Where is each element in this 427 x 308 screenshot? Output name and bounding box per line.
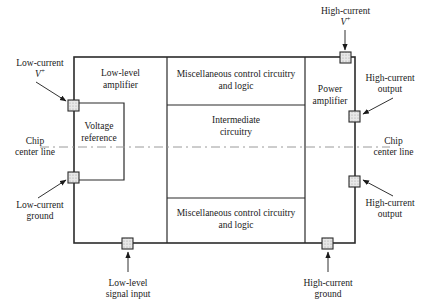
leader-high-current-output-lower: [363, 180, 393, 196]
callout-high-current-output-lower-line2: output: [355, 209, 425, 220]
callout-low-current-vplus-line2: V+: [2, 69, 78, 80]
chip-floorplan-figure: Low-level amplifier Voltage reference Mi…: [0, 0, 427, 308]
block-label-power-amplifier-line1: Power: [305, 84, 355, 96]
voltage-superscript: +: [41, 67, 45, 75]
callout-low-current-ground-line2: ground: [2, 211, 78, 222]
block-label-misc-control-top-line2: and logic: [167, 81, 305, 93]
callout-high-current-ground-line2: ground: [286, 289, 370, 300]
block-label-misc-control-bottom: Miscellaneous control circuitry and logi…: [167, 208, 305, 231]
label-chip-center-line-left: Chip center line: [0, 136, 70, 158]
callout-high-current-ground: High-current ground: [286, 278, 370, 300]
pad-high-current-output-lower: [349, 176, 360, 187]
pad-low-current-vplus: [68, 100, 79, 111]
block-label-voltage-reference: Voltage reference: [74, 121, 124, 144]
callout-low-level-signal-input-line1: Low-level: [88, 278, 168, 289]
callout-low-current-vplus: Low-current V+: [2, 58, 78, 80]
label-chip-center-line-right-line1: Chip: [360, 136, 427, 147]
block-label-low-level-amplifier-line2: amplifier: [74, 80, 167, 92]
callout-low-current-ground-line1: Low-current: [2, 200, 78, 211]
callout-high-current-vplus-line2: V+: [303, 17, 388, 28]
callout-high-current-output-lower-line1: High-current: [355, 198, 425, 209]
pad-high-current-ground: [322, 238, 333, 249]
pad-high-current-vplus: [340, 52, 351, 63]
block-label-power-amplifier-line2: amplifier: [305, 96, 355, 108]
callout-high-current-output-lower: High-current output: [355, 198, 425, 220]
callout-high-current-output-upper-line1: High-current: [355, 73, 425, 84]
pad-low-current-ground: [68, 172, 79, 183]
label-chip-center-line-left-line2: center line: [0, 147, 70, 158]
leader-low-current-ground: [38, 180, 66, 198]
block-label-misc-control-bottom-line1: Miscellaneous control circuitry: [167, 208, 305, 220]
block-label-intermediate-circuitry-line2: circuitry: [167, 127, 305, 139]
label-chip-center-line-right: Chip center line: [360, 136, 427, 158]
callout-high-current-ground-line1: High-current: [286, 278, 370, 289]
block-label-power-amplifier: Power amplifier: [305, 84, 355, 107]
callout-high-current-output-upper: High-current output: [355, 73, 425, 95]
callout-high-current-output-upper-line2: output: [355, 84, 425, 95]
callout-high-current-vplus: High-current V+: [303, 6, 388, 28]
block-label-voltage-reference-line1: Voltage: [74, 121, 124, 133]
pad-high-current-output-upper: [349, 111, 360, 122]
voltage-superscript: +: [346, 15, 350, 23]
label-chip-center-line-left-line1: Chip: [0, 136, 70, 147]
label-chip-center-line-right-line2: center line: [360, 147, 427, 158]
callout-low-level-signal-input-line2: signal input: [88, 289, 168, 300]
leader-low-current-vplus: [36, 82, 66, 101]
block-label-misc-control-bottom-line2: and logic: [167, 220, 305, 232]
pad-low-level-signal-input: [122, 238, 133, 249]
block-label-voltage-reference-line2: reference: [74, 133, 124, 145]
callout-low-current-ground: Low-current ground: [2, 200, 78, 222]
block-label-misc-control-top: Miscellaneous control circuitry and logi…: [167, 69, 305, 92]
callout-low-level-signal-input: Low-level signal input: [88, 278, 168, 300]
leader-high-current-output-upper: [363, 98, 393, 114]
block-label-intermediate-circuitry: Intermediate circuitry: [167, 115, 305, 138]
block-label-intermediate-circuitry-line1: Intermediate: [167, 115, 305, 127]
block-label-misc-control-top-line1: Miscellaneous control circuitry: [167, 69, 305, 81]
block-label-low-level-amplifier: Low-level amplifier: [74, 68, 167, 91]
block-label-low-level-amplifier-line1: Low-level: [74, 68, 167, 80]
